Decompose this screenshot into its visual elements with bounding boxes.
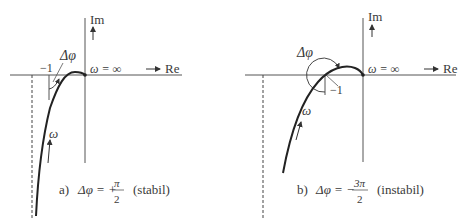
omega-direction-arrow-icon xyxy=(296,122,301,140)
origin-point xyxy=(361,73,365,77)
caption-a-label: a) xyxy=(59,182,69,197)
caption-b-note: (instabil) xyxy=(377,182,424,197)
caption-a-note: (stabil) xyxy=(133,182,170,197)
caption-b-label: b) xyxy=(297,182,308,197)
caption-a-numerator: π xyxy=(114,177,120,189)
omega-infinity-label: ω = ∞ xyxy=(368,62,400,76)
re-label: Re xyxy=(165,61,180,76)
origin-point xyxy=(83,73,87,77)
delta-phi-leader xyxy=(53,63,63,82)
omega-direction-arrow-icon xyxy=(48,140,50,163)
omega-label: ω xyxy=(49,126,58,141)
delta-phi-label: Δφ xyxy=(59,48,76,63)
figure-a: Im Re ω = ∞ −1 Δφ ω a) Δφ = + π 2 (stabi… xyxy=(10,12,182,218)
omega-infinity-label: ω = ∞ xyxy=(90,62,122,76)
im-label: Im xyxy=(368,9,382,24)
re-label: Re xyxy=(443,61,458,76)
nyquist-diagrams: Im Re ω = ∞ −1 Δφ ω a) Δφ = + π 2 (stabi… xyxy=(0,0,468,220)
omega-label: ω xyxy=(302,103,311,118)
caption-b-lhs: Δφ = − xyxy=(315,182,355,197)
figure-b: Im Re ω = ∞ −1 Δφ ω b) Δφ = − 3π 2 (inst… xyxy=(245,9,458,218)
nyquist-curve xyxy=(283,67,363,173)
im-label: Im xyxy=(90,12,104,27)
caption-a-denominator: 2 xyxy=(114,193,120,205)
delta-phi-label: Δφ xyxy=(296,45,313,60)
minus-one-label: −1 xyxy=(40,61,53,75)
minus-one-label: −1 xyxy=(330,83,343,97)
caption-a-lhs: Δφ = + xyxy=(77,182,117,197)
caption-b-denominator: 2 xyxy=(357,193,363,205)
caption-b-numerator: 3π xyxy=(353,177,366,189)
